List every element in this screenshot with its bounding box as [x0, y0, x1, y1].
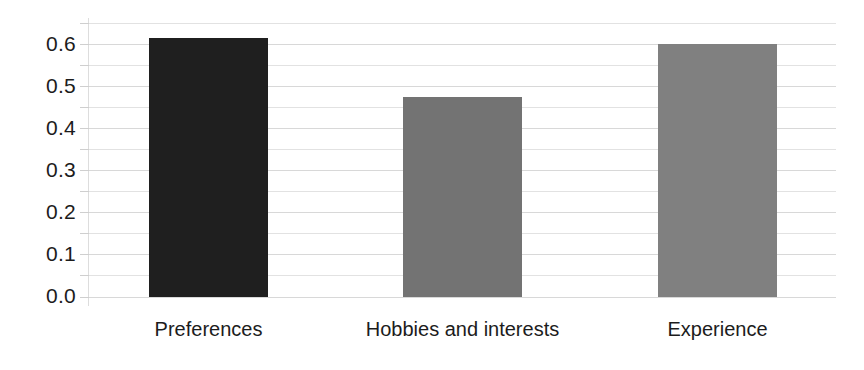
tick-mark	[80, 149, 89, 150]
tick-mark	[80, 275, 89, 276]
tick-mark	[80, 170, 89, 171]
tick-mark	[80, 44, 89, 45]
y-axis-tick-labels: 0.6 0.5 0.4 0.3 0.2 0.1 0.0	[0, 0, 76, 370]
tick-mark	[80, 86, 89, 87]
y-tick-label: 0.2	[46, 201, 76, 222]
tick-mark	[80, 107, 89, 108]
y-tick-label: 0.5	[46, 75, 76, 96]
y-tick-label: 0.3	[46, 159, 76, 180]
tick-mark	[80, 128, 89, 129]
gridline-major	[88, 297, 836, 298]
bar-chart: 0.6 0.5 0.4 0.3 0.2 0.1 0.0 Preferences …	[0, 0, 864, 370]
y-tick-label: 0.4	[46, 117, 76, 138]
tick-mark	[80, 23, 89, 24]
tick-mark	[80, 212, 89, 213]
x-category-label-preferences: Preferences	[89, 318, 328, 340]
bar-experience	[658, 44, 777, 297]
y-axis-line	[88, 18, 89, 306]
tick-mark	[80, 65, 89, 66]
tick-mark	[80, 254, 89, 255]
bar-hobbies-and-interests	[403, 97, 522, 297]
tick-mark	[80, 297, 89, 298]
plot-area	[88, 0, 836, 370]
y-tick-label: 0.6	[46, 33, 76, 54]
y-tick-label: 0.0	[46, 285, 76, 306]
y-tick-label: 0.1	[46, 243, 76, 264]
gridline-minor	[88, 23, 836, 24]
x-category-label-hobbies-and-interests: Hobbies and interests	[343, 318, 582, 340]
tick-mark	[80, 233, 89, 234]
tick-mark	[80, 191, 89, 192]
bar-preferences	[149, 38, 268, 297]
x-category-label-experience: Experience	[598, 318, 837, 340]
